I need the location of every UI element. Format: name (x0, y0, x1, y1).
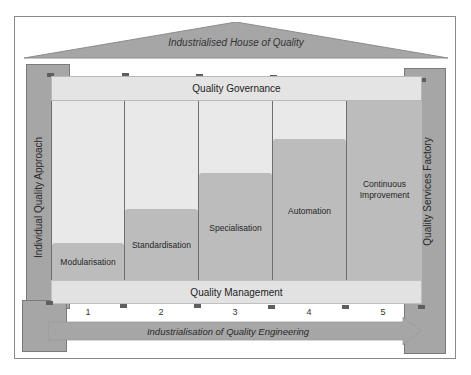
connector-knob (268, 305, 275, 309)
connector-knob (194, 304, 201, 308)
connector-knob (418, 305, 425, 309)
step-number: 1 (78, 307, 98, 317)
column-label: Automation (273, 206, 346, 217)
column-automation: Automation (273, 101, 347, 281)
right-pillar-label: Quality Services Factory (422, 117, 433, 267)
column-label: Specialisation (199, 223, 272, 234)
connector-knob (120, 304, 127, 308)
roof-title: Industrialised House of Quality (24, 37, 448, 48)
column-label: Standardisation (125, 240, 198, 251)
column-label-line1: Continuous (347, 179, 422, 190)
step-number: 4 (299, 307, 319, 317)
step-number: 5 (373, 307, 393, 317)
step-number: 3 (225, 307, 245, 317)
column-specialisation: Specialisation (199, 101, 273, 281)
column-label: Continuous Improvement (347, 179, 422, 201)
column-label: Modularisation (52, 257, 124, 268)
column-continuous-improvement: Continuous Improvement (347, 101, 422, 281)
quality-governance-band: Quality Governance (51, 76, 422, 101)
quality-management-band: Quality Management (51, 280, 422, 304)
left-pillar-label: Individual Quality Approach (33, 123, 44, 273)
connector-knob (46, 301, 53, 305)
connector-knob (342, 305, 349, 309)
column-modularisation: Modularisation (51, 101, 125, 281)
arrow-label: Industrialisation of Quality Engineering (48, 326, 408, 337)
columns-area: Modularisation Standardisation Specialis… (51, 101, 422, 281)
column-label-line2: Improvement (347, 190, 422, 201)
step-number: 2 (151, 307, 171, 317)
column-standardisation: Standardisation (125, 101, 199, 281)
